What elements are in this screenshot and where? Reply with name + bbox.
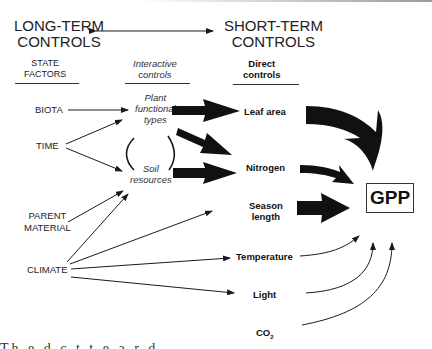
thick-arrow-leaf-gpp xyxy=(306,106,382,171)
thick-arrow-soil-nitrogen xyxy=(173,162,237,184)
cut-off-caption: Th e d c t t e a r d xyxy=(0,340,432,349)
arrow-time-soil xyxy=(66,148,122,171)
feedback-left-arc xyxy=(127,138,135,170)
arrow-time-pft xyxy=(66,120,122,144)
thick-arrow-pft-nitrogen xyxy=(176,128,232,155)
arrow-climate-temperature xyxy=(71,258,230,269)
thick-arrow-season-gpp xyxy=(297,193,350,223)
arrow-climate-light xyxy=(71,277,234,293)
arrow-climate-soil xyxy=(67,194,128,262)
arrow-temperature-gpp xyxy=(300,236,359,256)
feedback-right-arc xyxy=(168,136,174,170)
thick-arrow-pft-leaf xyxy=(172,99,240,122)
arrow-climate-season xyxy=(70,211,212,264)
arrows-layer xyxy=(0,0,432,349)
arrow-parent-soil xyxy=(68,191,123,222)
arrow-light-gpp xyxy=(306,243,373,293)
thick-arrow-nitrogen-gpp xyxy=(300,165,354,184)
